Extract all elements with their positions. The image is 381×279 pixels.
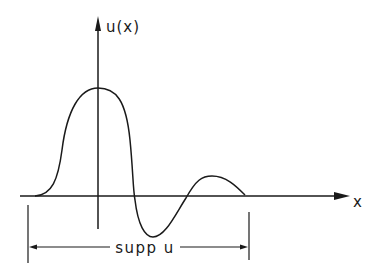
function-support-diagram: x u(x) supp u [0,0,381,279]
x-axis-arrowhead-icon [334,192,350,200]
y-axis-arrowhead-icon [95,16,101,31]
support-right-arrow-icon [240,245,248,250]
support-left-arrow-icon [29,245,37,250]
function-curve [35,88,245,237]
support-label: supp u [115,239,175,257]
y-axis [95,16,101,229]
y-axis-label: u(x) [106,18,140,36]
x-axis-label: x [353,193,362,211]
